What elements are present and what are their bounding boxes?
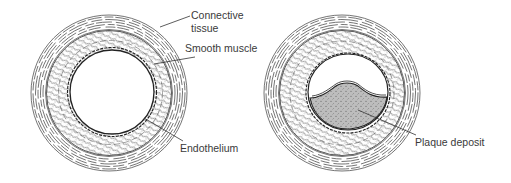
label-connective-tissue-line2: tissue	[191, 23, 218, 34]
label-endothelium: Endothelium	[180, 143, 238, 154]
label-smooth-muscle: Smooth muscle	[185, 43, 257, 54]
artery-cross-section-diagram	[0, 0, 511, 183]
label-plaque-deposit: Plaque deposit	[415, 137, 484, 148]
lumen-and-plaque	[306, 53, 390, 133]
occluded-artery	[264, 15, 420, 171]
connective-tissue-leader	[160, 16, 190, 27]
healthy-artery	[31, 15, 195, 171]
label-connective-tissue-line1: Connective	[191, 10, 244, 21]
